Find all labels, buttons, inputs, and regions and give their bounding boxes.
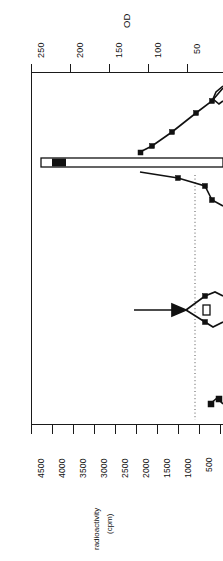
peak-bar-solid-segment [52,159,66,167]
cluster-open-marker [203,305,210,315]
plot-area [0,0,223,561]
cluster-marker [203,294,208,299]
lower-series-marker [210,198,215,203]
upper-series-line [140,88,223,152]
cluster-marker [203,320,208,325]
upper-series-marker [170,130,175,135]
peak-bar-outline [41,158,223,167]
figure-canvas: 250 200 150 100 50 OD 4500 4000 3500 300… [0,0,223,561]
baseline-cluster-marker [216,396,222,402]
upper-series-marker [138,150,143,155]
lower-series-marker [203,184,208,189]
peak-arrow-head [172,304,186,316]
upper-series-marker [150,144,155,149]
lower-series-marker [176,176,181,181]
baseline-cluster-marker [208,401,214,407]
upper-series-marker [194,111,199,116]
